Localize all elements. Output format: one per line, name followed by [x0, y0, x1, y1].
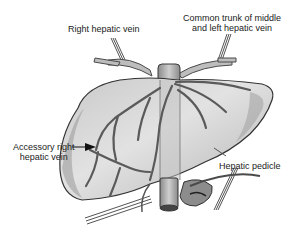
right-hepatic-vein-stub [111, 38, 126, 62]
label-accessory-line2: hepatic vein [13, 152, 75, 162]
ivc-through-liver [160, 80, 180, 180]
label-common-trunk: Common trunk of middle and left hepatic … [183, 13, 281, 33]
label-common-trunk-line1: Common trunk of middle [183, 13, 281, 23]
label-common-trunk-line2: and left hepatic vein [183, 23, 281, 33]
label-accessory-line1: Accessory right [13, 142, 75, 152]
hepatic-pedicle-clamps [214, 148, 238, 210]
label-right-hepatic-vein: Right hepatic vein [68, 24, 140, 34]
label-hepatic-pedicle: Hepatic pedicle [219, 161, 281, 171]
label-accessory-right-hepatic-vein: Accessory right hepatic vein [13, 142, 75, 162]
liver-illustration [0, 0, 290, 239]
